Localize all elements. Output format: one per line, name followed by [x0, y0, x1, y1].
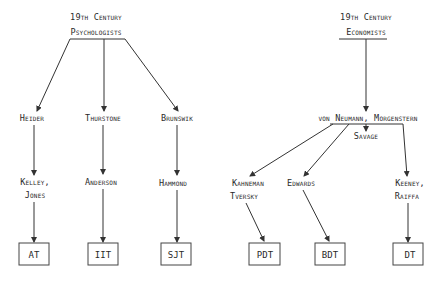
node-tversky: Tversky — [230, 191, 258, 201]
node-keeney: Keeney, — [395, 178, 425, 188]
arrow-to-pdt — [246, 203, 264, 241]
left-tree: 19th Century Psychologists Heider Thurst… — [19, 12, 193, 265]
label-at: AT — [29, 250, 40, 260]
arrow-to-keeney — [403, 124, 407, 176]
node-heider: Heider — [20, 113, 45, 123]
label-iit: IIT — [95, 250, 112, 260]
node-kahneman: Kahneman — [232, 178, 264, 188]
node-von-neumann-morgenstern: von Neumann, Morgenstern — [318, 113, 417, 123]
arrow-to-heider — [37, 39, 70, 111]
node-thurstone: Thurstone — [85, 113, 121, 123]
left-root-line2: Psychologists — [70, 27, 121, 37]
node-anderson: Anderson — [85, 177, 117, 187]
arrow-to-kahneman — [250, 124, 333, 176]
node-brunswik: Brunswik — [161, 113, 193, 123]
label-sjt: SJT — [168, 250, 185, 260]
node-savage: Savage — [354, 131, 379, 141]
theory-lineage-diagram: 19th Century Psychologists Heider Thurst… — [0, 0, 446, 281]
arrow-to-brunswik — [125, 39, 178, 111]
label-pdt: PDT — [257, 250, 274, 260]
right-tree: 19th Century Economists von Neumann, Mor… — [230, 12, 425, 265]
node-edwards: Edwards — [287, 178, 315, 188]
right-root-line1: 19th Century — [340, 12, 392, 22]
left-root-line1: 19th Century — [70, 12, 122, 22]
node-kelley: Kelley, — [20, 177, 50, 187]
label-dt: DT — [405, 250, 416, 260]
node-jones: Jones — [25, 190, 46, 200]
node-raiffa: Raiffa — [395, 191, 420, 201]
right-root-line2: Economists — [346, 27, 386, 37]
arrow-to-edwards — [304, 124, 349, 176]
node-hammond: Hammond — [159, 178, 187, 188]
arrow-to-bdt — [303, 190, 329, 241]
label-bdt: BDT — [322, 250, 339, 260]
